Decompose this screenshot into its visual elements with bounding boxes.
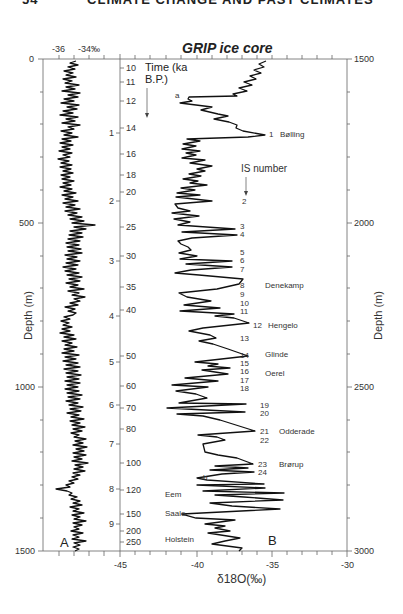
x-axis-title: δ18O(‰) bbox=[217, 572, 266, 586]
left-ylabel: Depth (m) bbox=[22, 291, 34, 340]
xtick-minus45: -45 bbox=[114, 560, 127, 570]
km-1: 1 bbox=[109, 128, 114, 138]
left-depth-ticks bbox=[38, 59, 43, 551]
is-9: 9 bbox=[240, 290, 244, 299]
event-a: a bbox=[175, 91, 179, 100]
time-18: 18 bbox=[126, 170, 136, 180]
a-xtick-minus36: -36 bbox=[52, 44, 65, 54]
right-depth-ticks bbox=[347, 59, 352, 551]
chart-canvas bbox=[0, 0, 403, 614]
period-odderade: Odderade bbox=[279, 427, 315, 436]
left-depth-500: 500 bbox=[19, 218, 34, 228]
is-7: 7 bbox=[240, 265, 244, 274]
time-arrow-head bbox=[145, 113, 149, 118]
right-depth-2000: 2000 bbox=[354, 218, 374, 228]
left-depth-1000: 1000 bbox=[15, 382, 35, 392]
right-ylabel: Depth (m) bbox=[372, 291, 384, 340]
time-250: 250 bbox=[126, 537, 141, 547]
time-120: 120 bbox=[126, 485, 141, 495]
period-holstein: Holstein bbox=[165, 535, 194, 544]
is-arrow-head bbox=[244, 191, 248, 196]
panel-b-curve bbox=[167, 61, 284, 551]
time-35: 35 bbox=[126, 282, 136, 292]
event-b: b bbox=[203, 473, 207, 482]
left-depth-0: 0 bbox=[29, 54, 34, 64]
is-1: 1 bbox=[269, 130, 273, 139]
is-11: 11 bbox=[240, 307, 248, 316]
is-8: 8 bbox=[240, 281, 244, 290]
is-2: 2 bbox=[242, 197, 246, 206]
is-18: 18 bbox=[240, 384, 249, 393]
is-22: 22 bbox=[260, 436, 269, 445]
period-denekamp: Denekamp bbox=[265, 281, 304, 290]
panel-a-curve bbox=[56, 61, 95, 551]
period-brorup: Brørup bbox=[279, 460, 303, 469]
period-bolling: Bølling bbox=[280, 130, 304, 139]
period-eem: Eem bbox=[165, 490, 181, 499]
period-oerel: Oerel bbox=[265, 369, 285, 378]
km-ticks bbox=[116, 133, 120, 524]
period-glinde: Glinde bbox=[265, 350, 288, 359]
time-100: 100 bbox=[126, 458, 141, 468]
panel-a-letter: A bbox=[60, 535, 69, 550]
km-4: 4 bbox=[109, 311, 114, 321]
is-20: 20 bbox=[260, 409, 269, 418]
km-3: 3 bbox=[109, 256, 114, 266]
period-saale: Saale bbox=[165, 509, 185, 518]
time-25: 25 bbox=[126, 222, 136, 232]
a-xtick-minus34: -34‰ bbox=[78, 44, 100, 54]
time-60: 60 bbox=[126, 381, 136, 391]
is-number-label: IS number bbox=[241, 163, 287, 174]
km-2: 2 bbox=[109, 196, 114, 206]
is-6: 6 bbox=[240, 256, 244, 265]
xtick-minus35: -35 bbox=[266, 560, 279, 570]
is-4: 4 bbox=[240, 230, 244, 239]
right-depth-1500: 1500 bbox=[354, 54, 374, 64]
is-16: 16 bbox=[240, 367, 249, 376]
time-axis-title: Time (ka B.P.) bbox=[145, 61, 205, 85]
km-8: 8 bbox=[109, 484, 114, 494]
time-150: 150 bbox=[126, 509, 141, 519]
is-13: 13 bbox=[240, 334, 249, 343]
km-9: 9 bbox=[109, 519, 114, 529]
time-200: 200 bbox=[126, 526, 141, 536]
xtick-minus40: -40 bbox=[191, 560, 204, 570]
right-depth-2500: 2500 bbox=[354, 382, 374, 392]
is-21: 21 bbox=[260, 427, 269, 436]
is-24: 24 bbox=[258, 468, 267, 477]
time-20: 20 bbox=[126, 187, 136, 197]
xtick-minus30: -30 bbox=[341, 560, 354, 570]
time-40: 40 bbox=[126, 305, 136, 315]
period-hengelo: Hengelo bbox=[268, 321, 298, 330]
time-10: 10 bbox=[126, 63, 136, 73]
km-6: 6 bbox=[109, 400, 114, 410]
time-70: 70 bbox=[126, 403, 136, 413]
right-depth-3000: 3000 bbox=[354, 546, 374, 556]
time-ticks bbox=[120, 68, 124, 542]
time-14: 14 bbox=[126, 123, 136, 133]
km-5: 5 bbox=[109, 357, 114, 367]
panel-b-letter: B bbox=[268, 533, 277, 548]
time-11: 11 bbox=[126, 77, 135, 87]
left-depth-1500: 1500 bbox=[15, 546, 35, 556]
bottom-ticks bbox=[59, 551, 347, 557]
time-16: 16 bbox=[126, 149, 136, 159]
is-12: 12 bbox=[253, 321, 262, 330]
time-80: 80 bbox=[126, 424, 136, 434]
time-12: 12 bbox=[126, 96, 136, 106]
time-30: 30 bbox=[126, 251, 136, 261]
time-50: 50 bbox=[126, 351, 136, 361]
km-7: 7 bbox=[109, 439, 114, 449]
top-ticks bbox=[59, 54, 332, 59]
